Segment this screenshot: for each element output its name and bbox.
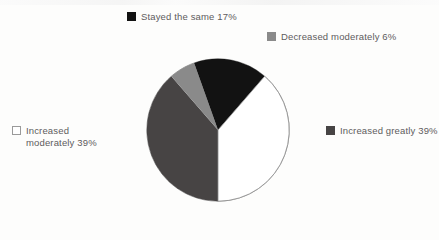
legend-swatch-increased-greatly [326,126,335,135]
legend-item-stayed-the-same: Stayed the same 17% [127,11,237,23]
legend-item-increased-greatly: Increased greatly 39% [326,125,438,137]
legend-label-stayed-the-same: Stayed the same 17% [141,11,237,23]
legend-item-decreased-moderately: Decreased moderately 6% [267,31,396,43]
legend-label-decreased-moderately: Decreased moderately 6% [281,31,396,43]
legend-swatch-stayed-the-same [127,12,136,21]
pie-chart-figure: Stayed the same 17% Decreased moderately… [0,0,439,240]
pie-chart [146,58,290,202]
legend-label-increased-greatly: Increased greatly 39% [340,125,438,137]
pie-svg [146,58,290,202]
scan-artifact-top [0,0,439,5]
legend-swatch-increased-moderately [12,126,21,135]
legend-label-increased-moderately: Increased moderately 39% [26,125,97,148]
legend-item-increased-moderately: Increased moderately 39% [12,125,97,148]
legend-swatch-decreased-moderately [267,32,276,41]
pie-slice-group [147,59,289,201]
